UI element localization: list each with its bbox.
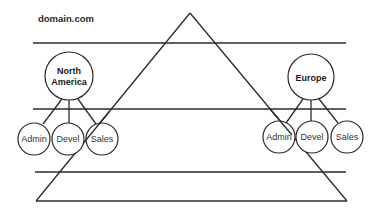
child-node-eu-admin[interactable]: Admin xyxy=(263,121,295,153)
child-label: Devel xyxy=(300,132,323,142)
child-node-na-admin[interactable]: Admin xyxy=(18,123,50,155)
child-label: Devel xyxy=(56,134,79,144)
region-label-line-1: North xyxy=(57,66,81,76)
connector-na-admin xyxy=(43,99,62,124)
child-node-eu-devel[interactable]: Devel xyxy=(296,121,328,153)
connector-eu-admin xyxy=(286,99,303,123)
child-node-na-devel[interactable]: Devel xyxy=(52,123,84,155)
region-node-europe[interactable]: Europe xyxy=(288,54,334,100)
child-label: Sales xyxy=(336,132,359,142)
connector-eu-sales xyxy=(319,99,338,123)
child-label: Admin xyxy=(21,134,47,144)
child-node-na-sales[interactable]: Sales xyxy=(86,123,118,155)
child-node-eu-sales[interactable]: Sales xyxy=(331,121,363,153)
child-label: Admin xyxy=(266,132,292,142)
connector-na-sales xyxy=(78,99,96,124)
domain-title: domain.com xyxy=(38,13,94,24)
domain-diagram: domain.com North America Admin Devel Sal… xyxy=(0,0,381,210)
region-label-line-1: Europe xyxy=(295,73,326,83)
child-label: Sales xyxy=(91,134,114,144)
region-label-line-2: America xyxy=(51,77,88,87)
triangle-right-edge xyxy=(190,13,347,201)
triangle-left-edge xyxy=(36,13,190,201)
region-node-north-america[interactable]: North America xyxy=(45,52,93,100)
